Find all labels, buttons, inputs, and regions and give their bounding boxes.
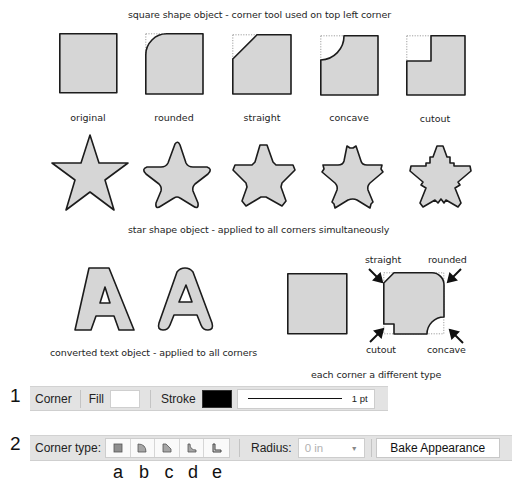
callout-cutout-label: cutout — [366, 344, 396, 355]
square-cutout-shape — [406, 35, 468, 97]
radius-label: Radius: — [245, 441, 298, 455]
radius-dropdown[interactable]: 0 in ▼ — [298, 438, 365, 458]
corner-type-e-button[interactable] — [204, 439, 229, 457]
callout-straight-label: straight — [365, 254, 401, 265]
control-bar-2: Corner type: Radius: 0 in ▼ Bake Appeara… — [30, 435, 512, 461]
star-section-title: star shape object - applied to all corne… — [128, 224, 389, 235]
star-concave-shape — [320, 144, 386, 210]
corner-type-b-button[interactable] — [131, 439, 156, 457]
corner-button[interactable]: Corner — [30, 392, 78, 406]
star-rounded-shape — [143, 141, 213, 211]
letter-a-original-shape — [74, 267, 138, 333]
square-rounded-shape — [145, 33, 205, 95]
corner-none-icon — [113, 443, 123, 453]
corner-type-letter-d: d — [183, 462, 203, 483]
letter-a-rounded-shape — [157, 268, 217, 334]
stroke-weight-field[interactable]: 1 pt — [237, 389, 375, 409]
corner-straight-icon — [162, 443, 172, 453]
corner-cutout-icon — [212, 443, 222, 453]
arrow-concave-icon — [449, 329, 465, 345]
corner-type-letter-e: e — [207, 462, 227, 483]
corner-type-letter-c: c — [159, 462, 179, 483]
arrow-straight-icon — [368, 268, 384, 284]
stroke-weight-value: 1 pt — [352, 393, 368, 404]
corner-type-label: Corner type: — [30, 441, 105, 455]
corner-rounded-icon — [137, 443, 147, 453]
row-number-2: 2 — [10, 433, 21, 455]
star-original-shape — [52, 135, 130, 213]
fill-swatch[interactable] — [110, 390, 140, 408]
control-bar-1: Corner Fill Stroke 1 pt — [30, 386, 388, 411]
fill-label: Fill — [83, 392, 110, 406]
label-original: original — [59, 112, 117, 123]
stroke-label: Stroke — [153, 392, 202, 406]
label-straight: straight — [232, 112, 292, 123]
square-concave-shape — [320, 35, 380, 97]
square-original-shape — [59, 33, 119, 93]
label-rounded: rounded — [145, 112, 203, 123]
corner-type-d-button[interactable] — [180, 439, 205, 457]
callout-concave-label: concave — [427, 344, 466, 355]
square-section-title: square shape object - corner tool used o… — [128, 9, 391, 20]
star-straight-shape — [232, 144, 298, 210]
arrow-cutout-icon — [369, 328, 385, 344]
text-section-caption: converted text object - applied to all c… — [50, 347, 257, 358]
square-straight-shape — [232, 34, 292, 96]
radius-value: 0 in — [305, 442, 324, 454]
square-plain-shape — [287, 273, 348, 335]
separator — [150, 390, 151, 408]
chevron-down-icon: ▼ — [351, 445, 358, 452]
bake-appearance-button[interactable]: Bake Appearance — [376, 438, 500, 458]
separator — [371, 439, 372, 457]
separator — [80, 390, 81, 408]
corner-type-c-button[interactable] — [155, 439, 180, 457]
stroke-preview-line — [248, 398, 342, 400]
corner-concave-icon — [187, 443, 197, 453]
label-concave: concave — [320, 112, 378, 123]
separator — [239, 439, 240, 457]
corner-type-a-button[interactable] — [106, 439, 131, 457]
callout-rounded-label: rounded — [428, 254, 467, 265]
square-mixed-corners-shape — [383, 272, 447, 336]
stroke-swatch[interactable] — [202, 390, 232, 408]
label-cutout: cutout — [406, 113, 464, 124]
mixed-section-caption: each corner a different type — [311, 369, 441, 380]
arrow-rounded-icon — [447, 268, 463, 284]
corner-type-letter-a: a — [108, 462, 128, 483]
star-cutout-shape — [408, 145, 474, 211]
corner-type-segmented-control — [105, 438, 230, 458]
corner-type-letter-b: b — [134, 462, 154, 483]
row-number-1: 1 — [10, 385, 21, 407]
